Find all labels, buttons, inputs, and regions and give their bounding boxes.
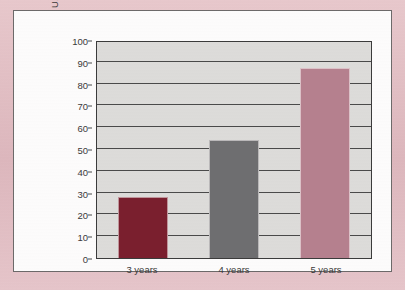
x-axis-tick-label: 4 years bbox=[194, 264, 274, 275]
x-axis-tick-label: 5 years bbox=[286, 264, 366, 275]
y-axis-tick-label: 70 bbox=[77, 101, 88, 112]
y-axis-tick-label: 10 bbox=[77, 232, 88, 243]
y-axis-tick-mark bbox=[88, 62, 92, 63]
chart-card: U.S. children enrolled in school (%) 010… bbox=[13, 10, 392, 272]
y-axis-tick-label: 60 bbox=[77, 123, 88, 134]
y-axis-ticks: 0102030405060708090100 bbox=[60, 41, 92, 259]
x-axis-labels: 3 years4 years5 years bbox=[96, 264, 372, 275]
bar-series bbox=[97, 42, 371, 258]
bar bbox=[209, 140, 259, 258]
y-axis-tick-label: 100 bbox=[72, 36, 88, 47]
x-axis-tick-label: 3 years bbox=[102, 264, 182, 275]
y-axis-title-label: U.S. children enrolled in school (%) bbox=[47, 0, 63, 41]
y-axis-tick-label: 80 bbox=[77, 79, 88, 90]
y-axis-tick-mark bbox=[88, 84, 92, 85]
y-axis-tick-mark bbox=[88, 41, 92, 42]
y-axis-tick-mark bbox=[88, 193, 92, 194]
y-axis-tick-mark bbox=[88, 106, 92, 107]
y-axis-tick-mark bbox=[88, 150, 92, 151]
y-axis-tick-label: 90 bbox=[77, 57, 88, 68]
y-axis-tick-label: 50 bbox=[77, 145, 88, 156]
y-axis-tick-label: 30 bbox=[77, 188, 88, 199]
y-axis-tick-label: 40 bbox=[77, 166, 88, 177]
y-axis-tick-label: 20 bbox=[77, 210, 88, 221]
bar bbox=[300, 68, 350, 258]
plot-wrapper bbox=[96, 41, 372, 259]
y-axis-title: U.S. children enrolled in school (%) bbox=[47, 0, 63, 41]
plot-area bbox=[96, 41, 372, 259]
y-axis-tick-mark bbox=[88, 259, 92, 260]
bar bbox=[118, 197, 168, 258]
y-axis-tick-mark bbox=[88, 128, 92, 129]
y-axis-tick-mark bbox=[88, 171, 92, 172]
y-axis-tick-mark bbox=[88, 237, 92, 238]
y-axis-tick-mark bbox=[88, 215, 92, 216]
